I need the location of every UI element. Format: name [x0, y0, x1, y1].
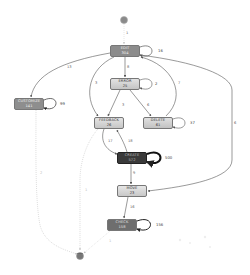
label-edit-error: 8	[127, 65, 129, 69]
label-error-feedback: 3	[122, 103, 124, 107]
edge-delete-self	[173, 118, 185, 128]
label-edit-self: 16	[158, 48, 163, 53]
node-delete-count: 61	[156, 123, 161, 128]
edge-edit-customize	[31, 53, 110, 97]
edge-create-feedback	[117, 130, 127, 152]
edge-feedback-end	[80, 129, 98, 250]
node-move-count: 23	[130, 191, 135, 196]
label-delete-edit: 7	[178, 81, 180, 85]
label-create-move: 9	[133, 171, 135, 175]
label-create-feedback: 18	[128, 139, 133, 143]
label-start-edit: 1	[126, 31, 128, 35]
edge-check-end	[84, 231, 110, 253]
label-error-delete: 6	[147, 103, 149, 107]
node-error-count: 25	[123, 84, 128, 89]
label-edit-customize: 13	[67, 65, 72, 69]
node-move[interactable]: MOVE 23	[117, 185, 147, 197]
label-move-check: 16	[130, 205, 135, 209]
label-error-self: 2	[155, 81, 157, 86]
label-create-self: 500	[165, 155, 172, 160]
node-create[interactable]: CREATE 572	[117, 152, 147, 164]
edge-customize-self	[44, 98, 56, 108]
label-edit-feedback: 3	[95, 81, 97, 85]
label-check-self: 156	[156, 222, 163, 227]
faint-artifacts	[179, 236, 211, 248]
node-check[interactable]: CHECK 158	[107, 219, 137, 231]
node-feedback-count: 26	[107, 123, 112, 128]
edge-edit-self	[140, 46, 152, 56]
edge-error-self	[140, 79, 152, 89]
label-customize-self: 99	[60, 101, 65, 106]
label-customize-end: 2	[40, 171, 42, 175]
edge-create-self	[147, 153, 161, 164]
edge-delete-edit	[141, 57, 176, 116]
node-create-count: 572	[129, 158, 136, 163]
edge-error-feedback	[108, 90, 120, 116]
node-edit-count: 304	[122, 51, 129, 56]
node-feedback[interactable]: FEEDBACK 26	[94, 117, 124, 129]
node-customize-count: 141	[26, 104, 33, 109]
node-edit[interactable]: EDIT 304	[110, 45, 140, 57]
label-edit-move: 6	[234, 121, 236, 125]
label-feedback-create: 17	[108, 139, 113, 143]
label-feedback-end: 1	[85, 188, 87, 192]
edge-move-check	[124, 197, 128, 218]
label-check-end: 1	[109, 239, 111, 243]
node-delete[interactable]: DELETE 61	[143, 117, 173, 129]
label-delete-self: 37	[190, 120, 195, 125]
edge-customize-end	[36, 110, 77, 254]
edge-check-self	[137, 220, 151, 231]
node-customize[interactable]: CUSTOMIZE 141	[14, 98, 44, 110]
start-node-icon[interactable]	[121, 17, 128, 24]
node-error[interactable]: ERROR 25	[110, 78, 140, 90]
node-check-count: 158	[119, 225, 126, 230]
process-map-canvas	[0, 0, 250, 275]
